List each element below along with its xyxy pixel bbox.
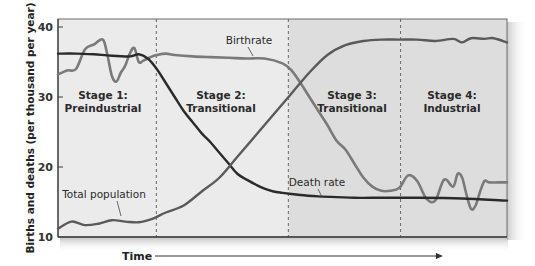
stage-1-label-line1: Stage 1: — [78, 89, 127, 101]
stage-3-label-line1: Stage 3: — [327, 89, 376, 101]
stage-4-background — [401, 19, 507, 237]
ytick-20: 20 — [38, 161, 54, 174]
time-arrow-head-icon — [436, 253, 443, 259]
ytick-30: 30 — [38, 91, 54, 104]
stage-2-label-line2: Transitional — [186, 102, 256, 114]
ytick-10: 10 — [38, 231, 54, 244]
stage-2-label-line1: Stage 2: — [196, 89, 245, 101]
demographic-transition-chart: 40 30 20 10 Births and deaths (per thous… — [0, 0, 535, 266]
stage-4-label-line1: Stage 4: — [427, 89, 476, 101]
stage-3-label-line2: Transitional — [317, 102, 387, 114]
ytick-40: 40 — [38, 21, 54, 34]
y-axis-label: Births and deaths (per thousand per year… — [24, 3, 36, 254]
stage-2-background — [156, 19, 288, 237]
stage-3-background — [288, 19, 400, 237]
total-population-label: Total population — [61, 188, 146, 200]
stage-4-label-line2: Industrial — [423, 102, 480, 114]
x-axis-label: Time — [122, 250, 152, 263]
birthrate-label: Birthrate — [226, 34, 273, 46]
death-rate-label: Death rate — [289, 176, 345, 188]
plot-shadow-right — [507, 22, 527, 240]
stage-backgrounds — [58, 19, 507, 237]
stage-1-label-line2: Preindustrial — [65, 102, 142, 114]
